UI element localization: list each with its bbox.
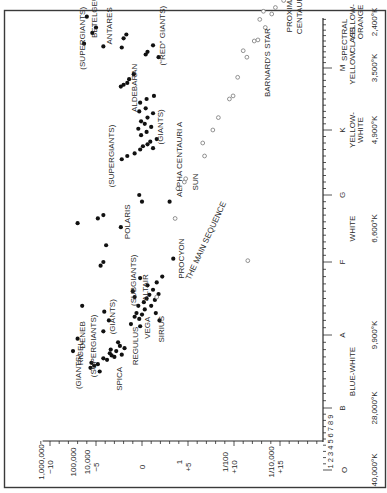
spectral-color-label: WHITE	[348, 216, 357, 242]
giant-star-point	[138, 147, 142, 151]
giant-star-point	[139, 133, 143, 137]
giant-star-point	[151, 288, 155, 292]
giant-star-point	[124, 32, 128, 36]
spectral-subdivision-label: 8	[326, 421, 335, 425]
giant-star-point	[120, 353, 124, 357]
giant-star-point	[149, 304, 153, 308]
giant-star-point	[160, 275, 164, 279]
magnitude-tick-label: −10	[46, 460, 55, 474]
giant-star-point	[76, 221, 80, 225]
spectral-temperature-label: 9,900°K	[370, 320, 379, 349]
giant-star-point	[108, 351, 112, 355]
giant-star-point	[114, 349, 118, 353]
giant-star-point	[154, 311, 158, 315]
magnitude-tick-label: +15	[276, 460, 285, 474]
spectral-temperature-label: 6,600°K	[370, 214, 379, 243]
dwarf-star-point	[241, 49, 245, 53]
giant-star-point	[140, 312, 144, 316]
giant-star-point	[101, 356, 105, 360]
luminosity-tick-label: 1/100	[221, 451, 230, 472]
giant-star-point	[151, 43, 155, 47]
spectral-subdivision-label: 2	[326, 458, 335, 462]
giant-star-point	[151, 146, 155, 150]
giant-star-point	[145, 50, 149, 54]
giant-star-point	[155, 280, 159, 284]
giant-star-point	[122, 36, 126, 40]
giant-star-point	[101, 260, 105, 264]
giant-star-point	[102, 310, 106, 314]
star-label: ANTARES	[105, 7, 114, 44]
magnitude-tick-label: +10	[230, 460, 239, 474]
star-label: (GIANTS)	[74, 354, 83, 389]
dwarf-star-point	[228, 97, 232, 101]
magnitude-tick-label: 0	[138, 464, 147, 469]
giant-star-point	[152, 94, 156, 98]
giant-star-point	[151, 111, 155, 115]
spectral-class-label: M	[338, 64, 347, 71]
giant-star-point	[145, 97, 149, 101]
dwarf-star-point	[201, 141, 205, 145]
star-label: BARNARD'S STAR	[263, 28, 272, 97]
giant-star-point	[120, 157, 124, 161]
giant-star-point	[71, 349, 75, 353]
giant-star-point	[116, 340, 120, 344]
giant-star-point	[129, 322, 133, 326]
spectral-class-label: A	[338, 332, 347, 338]
giant-star-point	[145, 130, 149, 134]
dwarf-star-point	[203, 154, 207, 158]
spectral-color-label: YELLOW	[348, 51, 357, 85]
giant-star-point	[122, 83, 126, 87]
star-label: PROCYON	[177, 238, 186, 279]
giant-star-point	[140, 200, 144, 204]
dwarf-star-point	[252, 39, 256, 43]
giant-star-point	[104, 243, 108, 247]
star-label: REGULUS	[131, 327, 140, 366]
spectral-temperature-label: 40,000°K	[370, 453, 379, 487]
spectral-subdivision-label: 4	[326, 446, 335, 450]
giant-star-point	[105, 358, 109, 362]
giant-star-point	[125, 81, 129, 85]
star-label: (SUPERGIANTS)	[89, 314, 98, 377]
giant-star-point	[112, 355, 116, 359]
star-label: ALDEBARAN	[130, 63, 139, 112]
giant-star-point	[141, 144, 145, 148]
spectral-class-label: G	[338, 192, 347, 198]
giant-star-point	[99, 264, 103, 268]
dwarf-star-point	[184, 177, 188, 181]
spectral-subdivision-label: 6	[326, 433, 335, 437]
dwarf-star-point	[245, 55, 249, 59]
giant-star-point	[134, 311, 138, 315]
giant-star-point	[120, 45, 124, 49]
star-label: POLARIS	[123, 204, 132, 239]
spectral-class-label: F	[338, 259, 347, 264]
star-label: CENTAURI	[295, 0, 304, 34]
giant-star-point	[101, 213, 105, 217]
star-label: ALTAIR	[141, 274, 150, 301]
star-label: VEGA	[143, 316, 152, 339]
luminosity-tick-label: 1/10,000	[267, 446, 276, 478]
spectral-subdivision-label: 3	[326, 452, 335, 456]
spectral-class-label: O	[340, 467, 349, 473]
giant-star-point	[136, 127, 140, 131]
giant-star-point	[143, 307, 147, 311]
giant-star-point	[171, 257, 175, 261]
luminosity-tick-label: 1	[175, 459, 184, 464]
dwarf-star-point	[231, 94, 235, 98]
giant-star-point	[80, 304, 84, 308]
luminosity-tick-label: 100,000	[69, 447, 78, 476]
giant-star-point	[96, 216, 100, 220]
giant-star-point	[133, 151, 137, 155]
dwarf-star-point	[256, 38, 260, 42]
giant-star-point	[109, 348, 113, 352]
star-label: (GIANTS)	[108, 299, 117, 334]
giant-star-point	[98, 369, 102, 373]
giant-star-point	[139, 119, 143, 123]
star-label: PROXIMA	[285, 0, 294, 32]
spectral-class-label: B	[338, 405, 347, 410]
dwarf-star-point	[246, 259, 250, 263]
star-label: SUN	[191, 173, 200, 190]
dwarf-star-point	[236, 75, 240, 79]
star-label: ALPHA CENTAURI A	[175, 121, 184, 197]
giant-star-point	[122, 346, 126, 350]
giant-star-point	[148, 140, 152, 144]
